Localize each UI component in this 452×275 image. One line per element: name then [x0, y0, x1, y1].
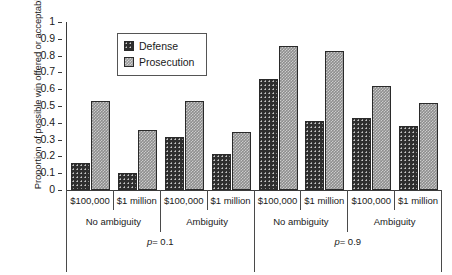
- y-tick-mark: [58, 56, 62, 57]
- x-axis-amount-cell: $1 million: [114, 190, 161, 210]
- x-axis-amount-cell: $100,000: [348, 190, 395, 210]
- x-axis-ambiguity-cell: No ambiguity: [67, 210, 161, 232]
- y-tick-mark: [58, 22, 62, 23]
- y-tick-label: 0.8: [21, 49, 55, 61]
- y-tick-label: 0.2: [21, 149, 55, 161]
- y-tick-label: 0.4: [21, 116, 55, 128]
- x-axis-amount-cell: $1 million: [301, 190, 348, 210]
- x-axis-amount-cell: $1 million: [395, 190, 441, 210]
- y-tick-label: 0.3: [21, 133, 55, 145]
- p-symbol: p: [334, 236, 339, 247]
- prosecution-swatch-icon: [124, 57, 134, 67]
- x-axis-probability-cell: p = 0.1: [67, 232, 255, 272]
- bar-defense: [399, 126, 418, 190]
- y-tick-mark: [58, 156, 62, 157]
- legend-label-prosecution: Prosecution: [139, 56, 194, 68]
- x-axis-ambiguity-cell: No ambiguity: [255, 210, 349, 232]
- y-tick-mark: [58, 123, 62, 124]
- x-axis-amount-cell: $100,000: [161, 190, 208, 210]
- bar-defense: [259, 79, 278, 190]
- x-axis-probability-cell: p = 0.9: [255, 232, 442, 272]
- x-axis-amount-cell: $100,000: [67, 190, 114, 210]
- y-tick-label: 0: [21, 183, 55, 195]
- bar-defense: [212, 154, 231, 190]
- y-tick-label: 0.6: [21, 82, 55, 94]
- x-axis-probability-row: p = 0.1p = 0.9: [67, 232, 441, 272]
- bar-prosecution: [372, 86, 391, 190]
- bar-group: [67, 22, 114, 190]
- x-axis-ambiguity-cell: Ambiguity: [161, 210, 255, 232]
- bar-prosecution: [138, 130, 157, 190]
- bar-group: [208, 22, 255, 190]
- y-tick-mark: [58, 89, 62, 90]
- bar-prosecution: [91, 101, 110, 190]
- y-tick-mark: [58, 39, 62, 40]
- chart-legend: Defense Prosecution: [117, 33, 207, 76]
- bar-chart-figure: Proportion of possible win offered or ac…: [0, 0, 452, 275]
- x-axis-ambiguity-row: No ambiguityAmbiguityNo ambiguityAmbigui…: [67, 210, 441, 232]
- y-tick-label: 1: [21, 15, 55, 27]
- y-tick-mark: [58, 72, 62, 73]
- bar-group: [348, 22, 395, 190]
- y-tick-mark: [58, 140, 62, 141]
- y-tick-mark: [58, 173, 62, 174]
- bar-group: [301, 22, 348, 190]
- bar-group: [255, 22, 302, 190]
- bar-prosecution: [279, 46, 298, 190]
- bar-group: [395, 22, 442, 190]
- legend-item-prosecution: Prosecution: [124, 54, 194, 70]
- p-symbol: p: [147, 236, 152, 247]
- y-tick-mark: [58, 190, 62, 191]
- y-tick-label: 0.7: [21, 65, 55, 77]
- x-axis-amount-cell: $100,000: [255, 190, 302, 210]
- bar-prosecution: [325, 51, 344, 190]
- x-axis-amount-cell: $1 million: [208, 190, 255, 210]
- legend-label-defense: Defense: [139, 40, 178, 52]
- bar-prosecution: [232, 132, 251, 190]
- y-tick-mark: [58, 106, 62, 107]
- bar-defense: [352, 118, 371, 190]
- defense-swatch-icon: [124, 41, 134, 51]
- x-axis-amount-row: $100,000$1 million$100,000$1 million$100…: [67, 190, 441, 210]
- x-axis-ambiguity-cell: Ambiguity: [348, 210, 441, 232]
- y-tick-label: 0.9: [21, 32, 55, 44]
- x-axis-group-table: $100,000$1 million$100,000$1 million$100…: [66, 190, 442, 272]
- bar-defense: [71, 163, 90, 190]
- bar-defense: [165, 137, 184, 190]
- legend-item-defense: Defense: [124, 38, 194, 54]
- bar-prosecution: [185, 101, 204, 190]
- y-tick-label: 0.1: [21, 166, 55, 178]
- y-tick-label: 0.5: [21, 99, 55, 111]
- bar-defense: [118, 173, 137, 190]
- bar-prosecution: [419, 103, 438, 190]
- bar-defense: [305, 121, 324, 190]
